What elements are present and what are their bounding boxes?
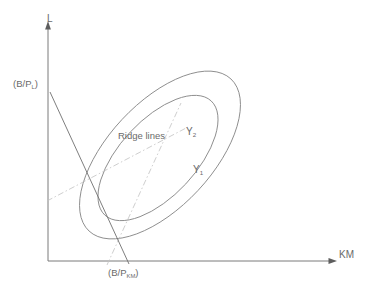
budget-intercept-km-label: (B/PKM) (108, 268, 138, 278)
budget-intercept-l-label: (B/PL) (13, 79, 38, 89)
isoquant-curve-y2 (77, 75, 239, 241)
budget-intercept-l-text: (B/P (13, 78, 31, 89)
budget-intercept-km-paren: ) (135, 267, 138, 278)
budget-intercept-l-subscript: L (31, 84, 34, 90)
axes-group (45, 21, 337, 264)
isoquant-y1-letter: Y (193, 164, 200, 175)
budget-intercept-l-paren: ) (35, 78, 38, 89)
isoquant-y2-letter: Y (186, 126, 193, 137)
budget-intercept-km-subscript: KM (126, 273, 135, 279)
y-axis-label: L (47, 14, 53, 24)
budget-constraint-line (50, 92, 129, 264)
isoquant-y1-subscript: 1 (200, 169, 203, 176)
isoquant-curve-y1 (51, 43, 269, 266)
x-axis-label: KM (339, 250, 354, 260)
x-axis-arrowhead-icon (329, 258, 338, 264)
isoquant-ridge-lines-figure: L KM (B/PL) (B/PKM) Ridge lines Y2 Y1 (0, 0, 373, 293)
budget-intercept-km-text: (B/P (108, 267, 126, 278)
ridge-lines-label: Ridge lines (118, 131, 165, 141)
isoquant-y2-subscript: 2 (193, 131, 196, 138)
ridge-lines-group (47, 103, 188, 265)
figure-canvas (0, 0, 373, 293)
isoquant-y2-label: Y2 (186, 127, 196, 137)
isoquant-y1-label: Y1 (193, 165, 203, 175)
